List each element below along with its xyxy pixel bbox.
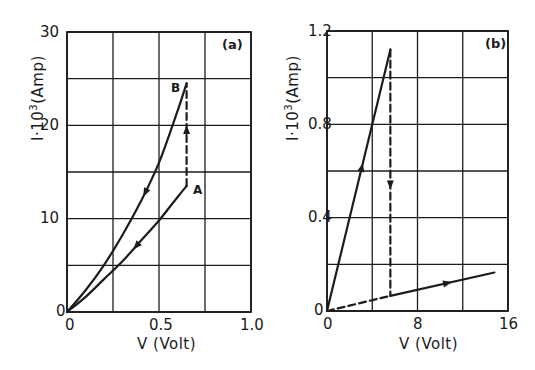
y-tick-30: 30 (40, 25, 59, 40)
data-series-line (390, 273, 494, 296)
panel-tag-a: (a) (222, 37, 243, 52)
arrow-icon (387, 181, 394, 190)
y-tick-10: 10 (40, 211, 59, 226)
y-axis-label-exponent: 3 (283, 104, 294, 111)
x-tick-0: 0 (323, 317, 333, 332)
y-axis-label-b: I·103(Amp) (281, 55, 301, 141)
data-series-line (67, 186, 187, 312)
y-tick-0-8: 0.8 (308, 117, 332, 132)
data-series-line (67, 83, 187, 312)
panel-tag-b: (b) (485, 36, 506, 51)
x-tick-0-5: 0.5 (149, 318, 173, 333)
point-label-b: B (171, 81, 180, 95)
data-series-line (327, 296, 390, 311)
chart-panel-a: 30 20 10 0 0 0.5 1.0 V (Volt) I·103(Amp)… (0, 0, 268, 370)
y-axis-label-base: I·10 (29, 111, 47, 141)
plot-area-b (268, 0, 535, 370)
y-axis-label-base: I·10 (284, 111, 302, 141)
y-axis-label-a: I·103(Amp) (26, 55, 46, 141)
x-axis-label-a: V (Volt) (137, 337, 196, 352)
x-tick-16: 16 (499, 317, 518, 332)
x-axis-label-b: V (Volt) (399, 337, 458, 352)
y-axis-label-exponent: 3 (28, 104, 39, 111)
data-series-line (327, 50, 390, 311)
point-label-a: A (193, 183, 202, 197)
y-tick-0-4: 0.4 (308, 210, 332, 225)
y-axis-label-unit: (Amp) (29, 55, 47, 104)
y-tick-1-2: 1.2 (308, 24, 332, 39)
chart-panel-b: 1.2 0.8 0.4 0 0 8 16 V (Volt) I·103(Amp)… (268, 0, 535, 370)
x-tick-0: 0 (65, 318, 75, 333)
x-tick-1-0: 1.0 (240, 318, 264, 333)
y-axis-label-unit: (Amp) (284, 55, 302, 104)
arrow-icon (143, 187, 150, 197)
x-tick-8: 8 (413, 317, 423, 332)
arrow-icon (183, 125, 190, 134)
